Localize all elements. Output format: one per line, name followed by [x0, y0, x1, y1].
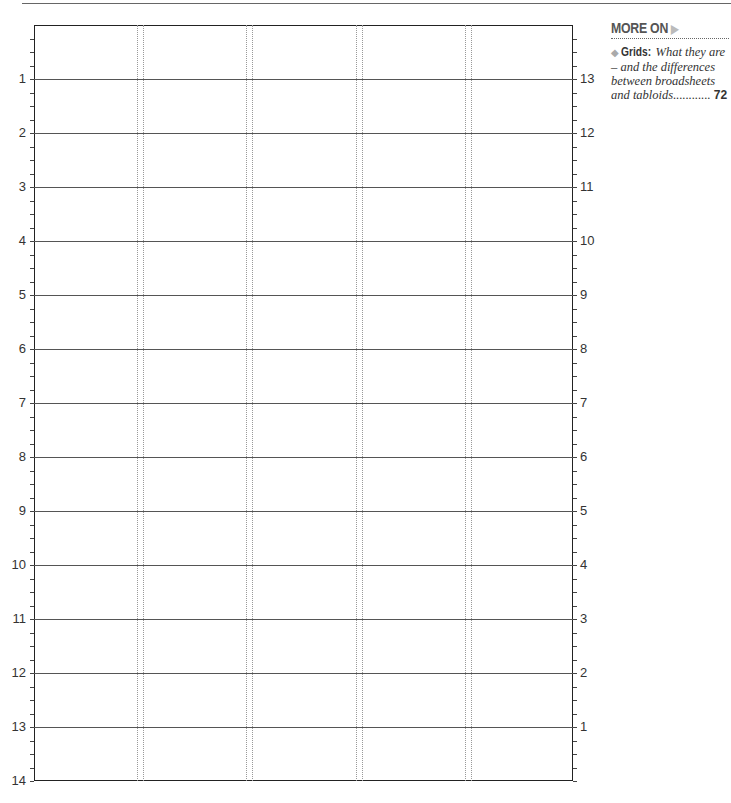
left-tick — [30, 714, 34, 715]
right-tick — [573, 552, 577, 553]
right-row-label: 12 — [580, 125, 594, 140]
left-row-label: 8 — [2, 449, 26, 464]
row-line — [34, 673, 573, 674]
right-tick — [573, 498, 577, 499]
right-tick — [573, 349, 577, 350]
right-tick — [573, 565, 577, 566]
right-tick — [573, 120, 577, 121]
left-row-label: 14 — [2, 773, 26, 788]
left-tick — [30, 376, 34, 377]
right-tick — [573, 322, 577, 323]
right-tick — [573, 619, 577, 620]
left-tick — [30, 282, 34, 283]
right-tick — [573, 484, 577, 485]
left-tick — [30, 52, 34, 53]
right-tick — [573, 673, 577, 674]
left-tick — [30, 93, 34, 94]
more-on-label: MORE ON — [611, 19, 668, 36]
right-tick — [573, 336, 577, 337]
left-tick — [30, 768, 34, 769]
right-tick — [573, 511, 577, 512]
left-tick — [30, 525, 34, 526]
left-tick — [30, 592, 34, 593]
right-tick — [573, 633, 577, 634]
left-tick — [30, 147, 34, 148]
right-tick — [573, 444, 577, 445]
left-tick — [30, 444, 34, 445]
right-row-label: 6 — [580, 449, 587, 464]
row-line — [34, 187, 573, 188]
left-tick — [30, 241, 34, 242]
right-tick — [573, 93, 577, 94]
right-tick — [573, 768, 577, 769]
right-tick — [573, 282, 577, 283]
left-tick — [30, 363, 34, 364]
right-tick — [573, 39, 577, 40]
left-tick — [30, 201, 34, 202]
right-tick — [573, 160, 577, 161]
right-tick — [573, 471, 577, 472]
left-tick — [30, 349, 34, 350]
left-tick — [30, 538, 34, 539]
left-tick — [30, 295, 34, 296]
left-tick — [30, 471, 34, 472]
left-tick — [30, 619, 34, 620]
right-tick — [573, 417, 577, 418]
right-tick — [573, 255, 577, 256]
left-tick — [30, 322, 34, 323]
row-line — [34, 511, 573, 512]
left-tick — [30, 498, 34, 499]
left-tick — [30, 687, 34, 688]
left-row-label: 10 — [2, 557, 26, 572]
left-tick — [30, 700, 34, 701]
left-tick — [30, 673, 34, 674]
cross-reference-entry: ◆Grids: What they are – and the differen… — [611, 45, 729, 102]
left-row-label: 11 — [2, 611, 26, 626]
left-tick — [30, 268, 34, 269]
diamond-bullet-icon: ◆ — [611, 47, 619, 58]
right-tick — [573, 754, 577, 755]
left-tick — [30, 565, 34, 566]
column-gutter-line — [362, 25, 364, 781]
left-row-label: 13 — [2, 719, 26, 734]
left-tick — [30, 417, 34, 418]
column-gutter-line — [143, 25, 145, 781]
row-line — [34, 295, 573, 296]
row-line — [34, 241, 573, 242]
right-tick — [573, 781, 577, 782]
right-tick — [573, 390, 577, 391]
arrow-right-icon: ▶ — [671, 22, 678, 36]
right-row-label: 2 — [580, 665, 587, 680]
right-row-label: 1 — [580, 719, 587, 734]
left-tick — [30, 228, 34, 229]
right-row-label: 8 — [580, 341, 587, 356]
right-tick — [573, 214, 577, 215]
right-tick — [573, 228, 577, 229]
left-tick — [30, 336, 34, 337]
left-row-label: 9 — [2, 503, 26, 518]
right-tick — [573, 538, 577, 539]
left-tick — [30, 552, 34, 553]
right-tick — [573, 106, 577, 107]
more-on-sidebar: MORE ON▶ ◆Grids: What they are – and the… — [611, 19, 729, 102]
right-tick — [573, 714, 577, 715]
entry-page-number: 72 — [714, 88, 727, 102]
left-tick — [30, 133, 34, 134]
left-tick — [30, 174, 34, 175]
column-gutter-line — [252, 25, 254, 781]
right-tick — [573, 174, 577, 175]
right-tick — [573, 687, 577, 688]
left-tick — [30, 579, 34, 580]
right-tick — [573, 741, 577, 742]
row-line — [34, 727, 573, 728]
left-tick — [30, 309, 34, 310]
left-tick — [30, 781, 34, 782]
right-row-label: 10 — [580, 233, 594, 248]
left-tick — [30, 511, 34, 512]
right-tick — [573, 147, 577, 148]
right-tick — [573, 646, 577, 647]
right-tick — [573, 579, 577, 580]
right-tick — [573, 201, 577, 202]
top-rule — [22, 3, 731, 4]
right-tick — [573, 187, 577, 188]
